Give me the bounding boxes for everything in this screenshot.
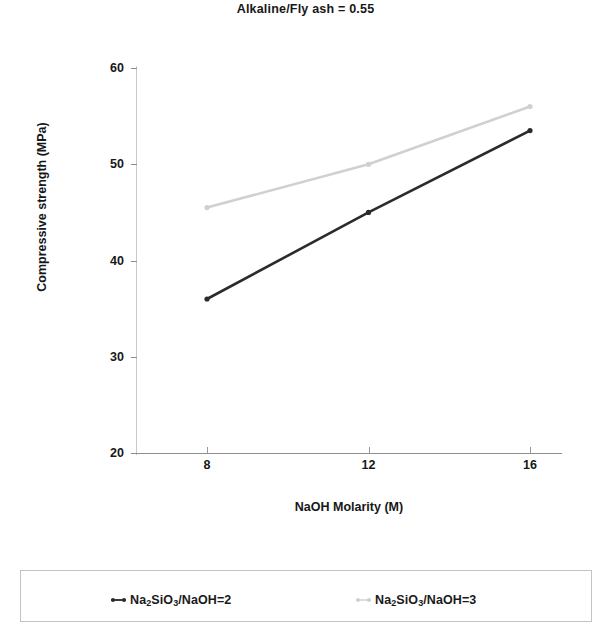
series-1-data-point xyxy=(366,210,371,215)
legend-label-series-2: Na2SiO3/NaOH=3 xyxy=(375,593,476,607)
legend-marker-icon-series-2 xyxy=(356,598,371,602)
series-1-data-point xyxy=(527,128,532,133)
series-2-data-point xyxy=(366,162,371,167)
series-layer xyxy=(0,0,611,624)
legend-entry-series-2: Na2SiO3/NaOH=3 xyxy=(356,593,476,607)
series-line-2 xyxy=(207,107,530,208)
series-2-data-point xyxy=(527,104,532,109)
chart-figure: Alkaline/Fly ash = 0.55 2030405060 81216… xyxy=(0,0,611,624)
legend-label-series-1: Na2SiO3/NaOH=2 xyxy=(130,593,231,607)
legend-marker-icon-series-1 xyxy=(111,598,126,602)
legend-entry-series-1: Na2SiO3/NaOH=2 xyxy=(111,593,231,607)
series-1-data-point xyxy=(204,296,209,301)
legend-box: Na2SiO3/NaOH=2 Na2SiO3/NaOH=3 xyxy=(20,570,592,622)
series-2-data-point xyxy=(204,205,209,210)
